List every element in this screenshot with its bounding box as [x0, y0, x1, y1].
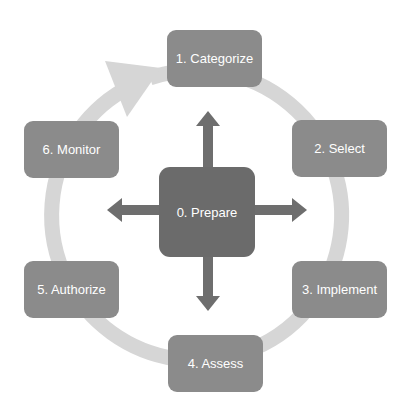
arrow-up-icon	[196, 111, 220, 170]
step-authorize: 5. Authorize	[24, 261, 119, 318]
step-label: 1. Categorize	[176, 51, 253, 66]
arrow-left-icon	[107, 198, 164, 222]
step-label: 3. Implement	[302, 282, 377, 297]
arrow-down-icon	[196, 252, 220, 311]
arrow-right-icon	[250, 198, 307, 222]
step-label: 4. Assess	[188, 356, 244, 371]
step-categorize: 1. Categorize	[167, 30, 262, 87]
step-monitor: 6. Monitor	[24, 121, 119, 178]
step-label: 2. Select	[314, 141, 365, 156]
step-label: 0. Prepare	[177, 205, 238, 220]
step-prepare: 0. Prepare	[159, 167, 255, 257]
step-label: 6. Monitor	[43, 142, 101, 157]
step-label: 5. Authorize	[37, 282, 106, 297]
step-assess: 4. Assess	[168, 335, 263, 392]
step-select: 2. Select	[292, 120, 387, 177]
step-implement: 3. Implement	[292, 261, 387, 318]
